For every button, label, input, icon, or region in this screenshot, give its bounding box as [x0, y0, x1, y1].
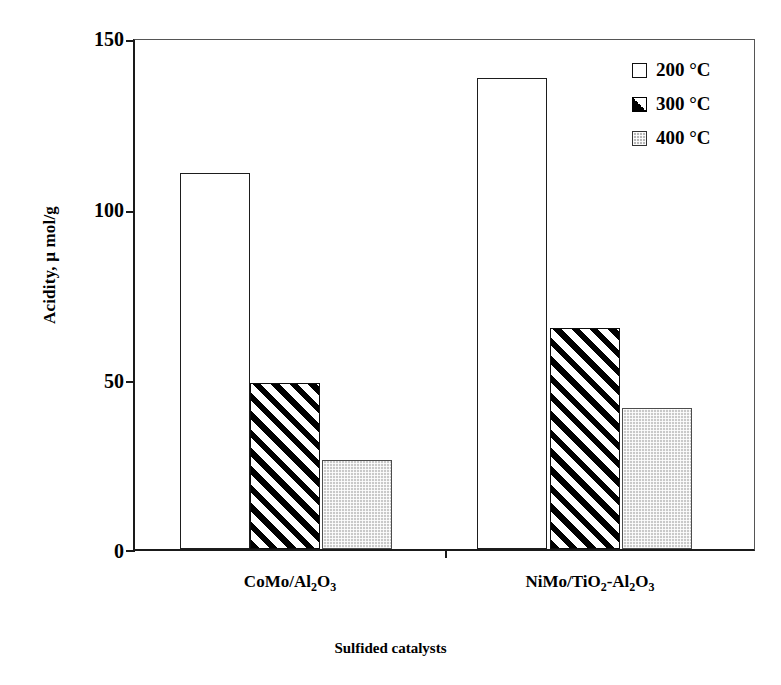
cat1-sub2: 3 — [330, 580, 336, 594]
x-axis-title: Sulfided catalysts — [0, 640, 781, 657]
x-category-label-nimotio2al2o3: NiMo/TiO2-Al2O3 — [445, 572, 735, 595]
y-tick-mark-0 — [126, 550, 135, 552]
cat2-s3: 3 — [649, 580, 655, 594]
legend-label-200c: 200 °C — [656, 59, 711, 81]
legend-label-300c: 300 °C — [656, 93, 711, 115]
legend-label-400c: 400 °C — [656, 127, 711, 149]
legend-item-300c: 300 °C — [632, 87, 752, 121]
x-category-label-comoal2o3: CoMo/Al2O3 — [155, 572, 425, 595]
cat1-part2: O — [317, 572, 330, 591]
y-axis-tick-labels: 150 100 50 0 — [62, 0, 124, 685]
plot-area: 200 °C 300 °C 400 °C — [133, 39, 755, 551]
bar-nimotio2al2o3-400c — [622, 408, 692, 549]
bar-chart-figure: Acidity, μ mol/g 150 100 50 0 200 °C — [0, 0, 781, 685]
y-tick-label-150: 150 — [62, 29, 124, 49]
y-axis-title: Acidity, μ mol/g — [40, 135, 60, 395]
hatched-square-swatch-icon — [632, 97, 647, 112]
cat2-p1: NiMo/TiO — [525, 572, 600, 591]
bar-nimotio2al2o3-300c — [550, 328, 620, 549]
bar-comoal2o3-300c — [250, 383, 320, 549]
legend-item-400c: 400 °C — [632, 121, 752, 155]
stippled-square-swatch-icon — [632, 131, 647, 146]
x-tick-mark-center — [445, 549, 447, 558]
y-tick-mark-100 — [126, 211, 135, 213]
y-tick-label-50: 50 — [62, 371, 124, 391]
y-tick-mark-150 — [126, 40, 135, 42]
legend-item-200c: 200 °C — [632, 53, 752, 87]
y-tick-label-100: 100 — [62, 200, 124, 220]
legend: 200 °C 300 °C 400 °C — [632, 53, 752, 155]
bar-comoal2o3-200c — [180, 173, 250, 549]
y-tick-mark-50 — [126, 381, 135, 383]
bar-nimotio2al2o3-200c — [477, 78, 547, 549]
empty-square-swatch-icon — [632, 63, 647, 78]
cat1-part1: CoMo/Al — [244, 572, 311, 591]
bar-comoal2o3-400c — [322, 460, 392, 549]
cat2-p3: O — [635, 572, 648, 591]
cat2-p2: -Al — [607, 572, 630, 591]
y-tick-label-0: 0 — [62, 541, 124, 561]
